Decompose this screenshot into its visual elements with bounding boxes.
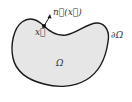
domain-diagram: n⃗(x⃗) x⃗ ∂Ω Ω (0, 0, 132, 102)
boundary-label: ∂Ω (111, 30, 124, 40)
point-label: x⃗ (35, 27, 45, 37)
normal-label: n⃗(x⃗) (53, 7, 82, 17)
arrowhead-icon (48, 14, 52, 19)
domain-label: Ω (55, 58, 64, 68)
domain-region (12, 19, 109, 86)
